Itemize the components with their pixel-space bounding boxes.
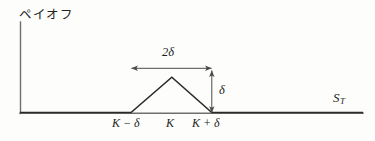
x-axis-label-subscript: T [340, 96, 345, 106]
payoff-diagram-figure: ペイオフ ST 2δ δ K − δ K K + δ [0, 0, 375, 141]
y-axis-label: ペイオフ [19, 4, 73, 23]
x-tick-label-k-minus-delta: K − δ [112, 116, 140, 131]
x-tick-label-k-plus-delta: K + δ [192, 116, 220, 131]
payoff-curve [20, 77, 363, 112]
payoff-triangle-path [20, 77, 363, 112]
axes [20, 22, 363, 114]
x-axis-label: ST [333, 90, 345, 106]
height-label-delta: δ [219, 83, 225, 98]
span-label-2delta: 2δ [162, 45, 174, 60]
x-tick-label-k: K [166, 116, 174, 131]
x-axis-label-base: S [333, 90, 340, 105]
